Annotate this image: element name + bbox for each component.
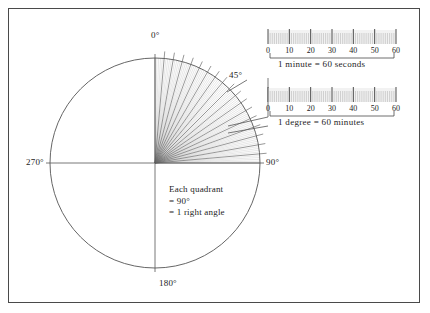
degree-ruler-tick-label: 40 xyxy=(349,104,357,113)
minute-ruler-tick-label: 30 xyxy=(328,46,336,55)
label-180-degrees: 180° xyxy=(159,278,177,288)
degree-ruler-tick-label: 0 xyxy=(266,104,270,113)
minute-ruler-tick-label: 20 xyxy=(307,46,315,55)
degree-ruler-tick-label: 30 xyxy=(328,104,336,113)
forty-five-degree-leader-line xyxy=(227,80,247,92)
quadrant-note-line-2: = 90° xyxy=(169,196,225,208)
minute-ruler-tick-label: 50 xyxy=(371,46,379,55)
degree-ruler-tick-label: 50 xyxy=(371,104,379,113)
degree-ruler-tick-label: 10 xyxy=(285,104,293,113)
degree-ruler-tick-label: 60 xyxy=(392,104,400,113)
label-90-degrees: 90° xyxy=(266,157,279,167)
degree-ruler-caption: 1 degree = 60 minutes xyxy=(278,117,364,127)
ruler-scales xyxy=(268,29,396,116)
label-0-degrees: 0° xyxy=(151,30,160,40)
minute-ruler-caption: 1 minute = 60 seconds xyxy=(278,59,365,69)
minute-ruler-tick-label: 10 xyxy=(285,46,293,55)
label-270-degrees: 270° xyxy=(26,157,44,167)
degree-ruler-tick-label: 20 xyxy=(307,104,315,113)
minute-ruler-tick-label: 60 xyxy=(392,46,400,55)
minute-ruler-tick-label: 40 xyxy=(349,46,357,55)
degrees-minutes-seconds-figure: 0° 90° 180° 270° 45° Each quadrant = 90°… xyxy=(0,0,430,313)
label-45-degrees: 45° xyxy=(229,70,242,80)
diagram-canvas xyxy=(0,0,430,313)
quadrant-note-line-1: Each quadrant xyxy=(169,184,225,196)
minute-ruler-tick-label: 0 xyxy=(266,46,270,55)
quadrant-note: Each quadrant = 90° = 1 right angle xyxy=(169,184,225,219)
quadrant-note-line-3: = 1 right angle xyxy=(169,207,225,219)
quadrant-major-degree-lines xyxy=(155,58,260,163)
